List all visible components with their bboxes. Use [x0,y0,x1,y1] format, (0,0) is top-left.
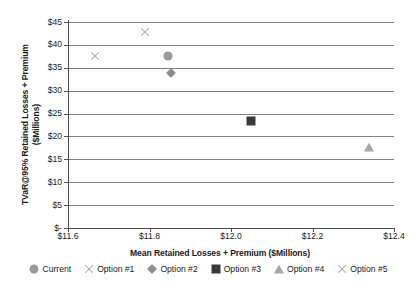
data-point-current [163,51,172,60]
gridline [68,45,394,46]
chart-legend: CurrentOption #1Option #2Option #3Option… [0,264,417,274]
data-point-option-3 [246,116,255,125]
legend-swatch-option-3 [211,264,221,274]
cross-marker-icon [337,264,348,275]
x-tick-mark [150,228,151,232]
triangle-marker-icon [274,265,284,274]
x-tick-mark [313,228,314,232]
gridline [68,182,394,183]
y-axis-title: TVaR@95% Retained Losses + Premium ($Mil… [20,15,41,235]
gridline [68,91,394,92]
plot-area [68,22,394,228]
x-tick-label: $12.2 [288,232,338,241]
legend-label: Option #4 [287,265,324,274]
cross-marker-icon [84,264,95,275]
gridline [68,114,394,115]
data-point-option-4 [364,142,374,151]
x-tick-mark [394,228,395,232]
legend-item-option-5[interactable]: Option #5 [337,264,387,274]
x-axis-title: Mean Retained Losses + Premium ($Million… [40,248,400,258]
y-axis-title-line1: TVaR@95% Retained Losses + Premium [20,44,30,205]
x-tick-mark [231,228,232,232]
legend-label: Option #2 [160,265,197,274]
x-tick-label: $12.0 [206,232,256,241]
data-point-option-2 [166,68,176,78]
page-bottom-fragment [0,289,417,296]
legend-label: Option #3 [224,265,261,274]
gridline [68,205,394,206]
y-axis-line [68,20,69,230]
gridline [68,22,394,23]
legend-item-option-1[interactable]: Option #1 [84,264,134,274]
legend-item-option-2[interactable]: Option #2 [147,264,197,274]
legend-item-current[interactable]: Current [29,264,71,274]
gridline [68,136,394,137]
legend-swatch-option-4 [274,264,284,274]
legend-swatch-current [29,264,39,274]
x-tick-label: $11.6 [43,232,93,241]
legend-item-option-3[interactable]: Option #3 [211,264,261,274]
legend-item-option-4[interactable]: Option #4 [274,264,324,274]
scatter-chart: TVaR@95% Retained Losses + Premium ($Mil… [0,0,417,296]
gridline [68,68,394,69]
square-marker-icon [211,265,220,274]
data-point-option-1 [140,27,151,38]
legend-swatch-option-2 [147,264,157,274]
legend-label: Option #5 [350,265,387,274]
y-axis-title-line2: ($Millions) [31,15,42,235]
gridline [68,159,394,160]
legend-label: Option #1 [97,265,134,274]
x-tick-label: $12.4 [369,232,417,241]
x-tick-mark [68,228,69,232]
data-point-option-5 [90,50,101,61]
legend-label: Current [42,265,71,274]
diamond-marker-icon [147,264,157,274]
legend-swatch-option-1 [84,264,94,274]
legend-swatch-option-5 [337,264,347,274]
x-tick-label: $11.8 [125,232,175,241]
circle-marker-icon [30,265,39,274]
